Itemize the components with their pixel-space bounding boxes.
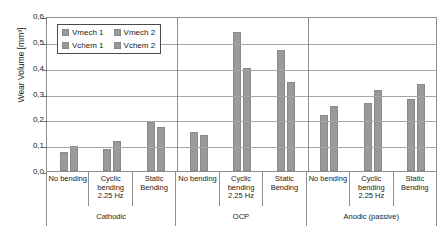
legend-label: Vchem 1 bbox=[72, 41, 104, 50]
y-tick-label: 0,1 bbox=[33, 142, 44, 150]
y-tickmark bbox=[43, 70, 47, 71]
legend-label: Vchem 2 bbox=[124, 41, 156, 50]
bar bbox=[243, 68, 251, 171]
x-group-label: OCP bbox=[176, 206, 306, 226]
y-tickmark bbox=[43, 96, 47, 97]
x-group-label-text: OCP bbox=[233, 212, 249, 221]
group-divider bbox=[308, 18, 309, 171]
y-tickmark bbox=[43, 18, 47, 19]
x-group-label: Cathodic bbox=[46, 206, 176, 226]
y-tick-label: 0,0 bbox=[33, 168, 44, 176]
legend-swatch-icon bbox=[114, 29, 121, 36]
bar bbox=[200, 135, 208, 171]
legend-item: Vchem 1 bbox=[62, 41, 104, 50]
y-tickmark bbox=[43, 147, 47, 148]
legend-item: Vmech 1 bbox=[62, 28, 104, 37]
legend-label: Vmech 1 bbox=[72, 28, 104, 37]
gridline bbox=[47, 70, 436, 71]
bar bbox=[407, 99, 415, 171]
x-category-label: Static Bending bbox=[394, 172, 437, 206]
group-label-band: CathodicOCPAnodic (passive) bbox=[46, 206, 437, 226]
bar bbox=[277, 50, 285, 171]
bar bbox=[364, 103, 372, 171]
x-category-label: Cyclic bending 2.25 Hz bbox=[89, 172, 132, 206]
bar bbox=[417, 84, 425, 171]
x-category-label: Cyclic bending 2.25 Hz bbox=[220, 172, 263, 206]
group-divider bbox=[177, 18, 178, 171]
x-category-label-text: Static Bending bbox=[394, 175, 436, 192]
x-category-label: Static Bending bbox=[263, 172, 306, 206]
gridline bbox=[47, 121, 436, 122]
y-tick-label: 0,4 bbox=[33, 65, 44, 73]
chart-legend: Vmech 1Vmech 2Vchem 1Vchem 2 bbox=[57, 24, 161, 54]
legend-swatch-icon bbox=[114, 42, 121, 49]
x-category-label: No bending bbox=[46, 172, 89, 206]
bar bbox=[60, 152, 68, 171]
x-category-label-text: Cyclic bending 2.25 Hz bbox=[220, 175, 262, 201]
y-tick-label: 0,3 bbox=[33, 91, 44, 99]
x-category-label: No bending bbox=[176, 172, 219, 206]
x-category-label: Cyclic bending 2.25 Hz bbox=[350, 172, 393, 206]
category-label-band: No bendingCyclic bending 2.25 HzStatic B… bbox=[46, 172, 437, 206]
bar bbox=[190, 132, 198, 171]
gridline bbox=[47, 96, 436, 97]
wear-volume-bar-chart: Wear Volume [mm³] 0,60,50,40,30,20,10,0 … bbox=[0, 0, 447, 228]
legend-swatch-icon bbox=[62, 42, 69, 49]
y-tick-label: 0,5 bbox=[33, 39, 44, 47]
legend-item: Vmech 2 bbox=[114, 28, 156, 37]
legend-item: Vchem 2 bbox=[114, 41, 156, 50]
x-category-label-text: Cyclic bending 2.25 Hz bbox=[350, 175, 392, 201]
y-tick-label: 0,6 bbox=[33, 13, 44, 21]
x-group-label: Anodic (passive) bbox=[307, 206, 437, 226]
x-group-label-text: Cathodic bbox=[96, 212, 126, 221]
x-category-label-text: No bending bbox=[177, 175, 217, 184]
bar bbox=[70, 146, 78, 171]
x-category-label-text: No bending bbox=[48, 175, 88, 184]
bar bbox=[320, 115, 328, 171]
x-category-label-text: No bending bbox=[308, 175, 348, 184]
y-tick-label: 0,2 bbox=[33, 116, 44, 124]
y-tickmark bbox=[43, 44, 47, 45]
x-category-label: Static Bending bbox=[133, 172, 176, 206]
legend-swatch-icon bbox=[62, 29, 69, 36]
bar bbox=[233, 32, 241, 172]
bar bbox=[103, 149, 111, 171]
bar bbox=[330, 106, 338, 171]
y-axis-tick-labels: 0,60,50,40,30,20,10,0 bbox=[24, 0, 44, 228]
bar bbox=[374, 90, 382, 171]
bar bbox=[113, 141, 121, 171]
legend-label: Vmech 2 bbox=[124, 28, 156, 37]
x-group-label-text: Anodic (passive) bbox=[344, 212, 399, 221]
x-category-label-text: Static Bending bbox=[133, 175, 175, 192]
gridline bbox=[47, 147, 436, 148]
x-category-label-text: Static Bending bbox=[263, 175, 305, 192]
x-category-label-text: Cyclic bending 2.25 Hz bbox=[89, 175, 131, 201]
y-tickmark bbox=[43, 121, 47, 122]
bar bbox=[157, 127, 165, 171]
x-category-label: No bending bbox=[307, 172, 350, 206]
